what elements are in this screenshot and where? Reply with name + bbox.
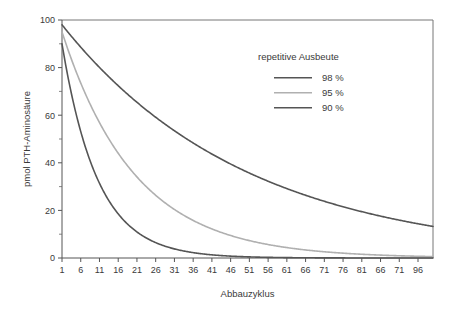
x-tick-label: 31 [169, 265, 179, 275]
x-tick-label: 21 [132, 265, 142, 275]
x-tick-label: 6 [78, 265, 83, 275]
x-tick-label: 96 [413, 265, 423, 275]
y-tick-label: 20 [45, 206, 55, 216]
x-tick-label: 76 [338, 265, 348, 275]
x-axis-title: Abbauzyklus [221, 288, 275, 299]
decay-line-chart: 020406080100 161116212631364146515661667… [0, 0, 451, 312]
y-tick-label: 60 [45, 111, 55, 121]
legend-title: repetitive Ausbeute [258, 51, 339, 62]
x-tick-label: 41 [207, 265, 217, 275]
x-tick-label: 81 [357, 265, 367, 275]
chart-figure: 020406080100 161116212631364146515661667… [0, 0, 451, 312]
x-tick-label: 56 [263, 265, 273, 275]
legend-label-98-: 98 % [322, 72, 344, 83]
y-tick-label: 0 [50, 253, 55, 263]
x-tick-label: 46 [226, 265, 236, 275]
y-tick-label: 80 [45, 63, 55, 73]
x-tick-label: 51 [244, 265, 254, 275]
y-axis-title: pmol PTH-Aminosäure [21, 91, 32, 187]
x-tick-label: 61 [282, 265, 292, 275]
x-tick-label: 66 [376, 265, 386, 275]
x-tick-label: 36 [188, 265, 198, 275]
legend-label-95-: 95 % [322, 87, 344, 98]
legend-label-90-: 90 % [322, 102, 344, 113]
x-tick-label: 16 [113, 265, 123, 275]
x-tick-label: 26 [151, 265, 161, 275]
x-tick-label: 66 [301, 265, 311, 275]
x-tick-label: 71 [394, 265, 404, 275]
x-tick-label: 11 [95, 265, 104, 275]
x-tick-label: 71 [319, 265, 329, 275]
y-tick-label: 40 [45, 158, 55, 168]
x-tick-label: 1 [59, 265, 64, 275]
y-tick-label: 100 [40, 15, 55, 25]
